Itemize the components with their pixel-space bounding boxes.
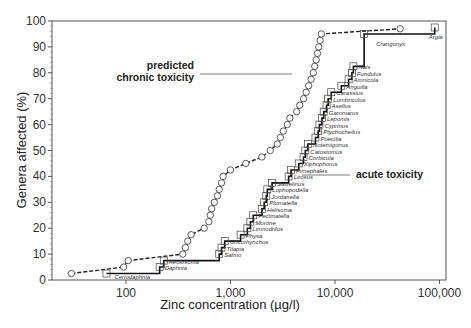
chronic-point — [211, 199, 217, 205]
chronic-point — [207, 212, 213, 218]
genus-label: Salvelinus — [277, 181, 304, 187]
y-tick-label: 90 — [33, 40, 47, 54]
genus-label: Cyprinus — [324, 123, 348, 129]
toxicity-chart: 0102030405060708090100 1001,00010,000100… — [0, 0, 471, 328]
x-axis-title: Zinc concentration (µg/l) — [160, 297, 300, 312]
chronic-point — [220, 173, 226, 179]
chronic-point — [218, 180, 224, 186]
genus-label: Nais — [358, 64, 370, 70]
genus-label: Xiphophorus — [303, 161, 338, 167]
chronic-point — [227, 167, 233, 173]
y-axis-title: Genera affected (%) — [14, 92, 29, 209]
genus-label: Plumatella — [269, 200, 298, 206]
chronic-point — [201, 225, 207, 231]
genus-label: Daphnia — [165, 265, 188, 271]
genus-label: Asellus — [331, 103, 351, 109]
genus-label: Corbicula — [309, 155, 335, 161]
genus-label: Pectinatella — [258, 213, 290, 219]
chronic-point — [293, 108, 299, 114]
genus-label: Anguilla — [345, 84, 368, 90]
chronic-annotation-line2: chronic toxicity — [116, 71, 194, 83]
chronic-point — [277, 134, 283, 140]
y-tick-label: 0 — [39, 273, 46, 287]
genus-label: Ceriodaphnia — [114, 274, 150, 280]
chronic-point — [267, 147, 273, 153]
y-tick-label: 10 — [33, 247, 47, 261]
y-tick-label: 50 — [33, 144, 47, 158]
chronic-point — [68, 270, 74, 276]
y-tick-label: 20 — [33, 221, 47, 235]
genus-label: Jordanella — [270, 194, 299, 200]
chronic-point — [318, 31, 324, 37]
y-tick-label: 30 — [33, 195, 47, 209]
chronic-point — [300, 96, 306, 102]
chronic-point — [308, 76, 314, 82]
acute-annotation: acute toxicity — [356, 168, 423, 180]
chronic-point — [297, 102, 303, 108]
genus-label: Limnodrilus — [252, 226, 283, 232]
chronic-point — [180, 251, 186, 257]
genus-label: Lumbriculus — [333, 97, 365, 103]
genus-label: Lophopodella — [272, 187, 309, 193]
chronic-point — [188, 231, 194, 237]
genus-label: Catostomus — [310, 149, 342, 155]
genus-label: Morone — [255, 220, 276, 226]
y-tick-label: 70 — [33, 92, 47, 106]
chronic-point — [313, 57, 319, 63]
chronic-point — [314, 50, 320, 56]
chronic-point — [120, 264, 126, 270]
chronic-point — [125, 257, 131, 263]
y-tick-label: 100 — [26, 14, 46, 28]
chronic-point — [214, 193, 220, 199]
y-tick-label: 60 — [33, 118, 47, 132]
genus-label: Physa — [246, 233, 263, 239]
genus-label: Salmo — [224, 252, 242, 258]
chronic-point — [259, 154, 265, 160]
chronic-point — [274, 141, 280, 147]
chronic-point — [397, 26, 403, 32]
genus-label: Pimephales — [296, 168, 327, 174]
chronic-point — [312, 63, 318, 69]
chronic-point — [305, 83, 311, 89]
genus-label: Argia — [428, 34, 444, 40]
genus-label: Carassius — [336, 90, 363, 96]
genus-label: Crangonyx — [376, 41, 406, 47]
genus-label: Tilapia — [226, 246, 244, 252]
x-tick-label: 100,000 — [418, 286, 462, 300]
chronic-point — [310, 70, 316, 76]
chronic-point — [206, 219, 212, 225]
genus-label: Poecilia — [320, 136, 342, 142]
chronic-point — [182, 244, 188, 250]
genus-label: Fundulus — [357, 71, 382, 77]
genus-label: Amnicola — [353, 77, 379, 83]
chronic-annotation: predicted — [147, 59, 194, 71]
genus-label: Gammarus — [329, 110, 359, 116]
chronic-point — [316, 44, 322, 50]
genus-label: Notemigonus — [313, 142, 348, 148]
chronic-point — [280, 128, 286, 134]
y-tick-label: 80 — [33, 66, 47, 80]
genus-label: Aeolosoma — [168, 259, 200, 265]
chronic-point — [287, 115, 293, 121]
y-tick-label: 40 — [33, 169, 47, 183]
x-tick-label: 10,000 — [317, 286, 354, 300]
chronic-point — [284, 121, 290, 127]
genus-label: Ptychocheilus — [323, 129, 360, 135]
chronic-point — [303, 89, 309, 95]
chronic-point — [185, 238, 191, 244]
x-tick-label: 100 — [116, 286, 136, 300]
chronic-point — [317, 37, 323, 43]
genus-label: Lepomis — [327, 116, 350, 122]
chronic-point — [243, 160, 249, 166]
genus-label: Helisoma — [267, 207, 293, 213]
y-axis: 0102030405060708090100 — [26, 14, 52, 287]
chronic-point — [216, 186, 222, 192]
chronic-point — [208, 206, 214, 212]
genus-label: Oncorhynchus — [230, 239, 269, 245]
